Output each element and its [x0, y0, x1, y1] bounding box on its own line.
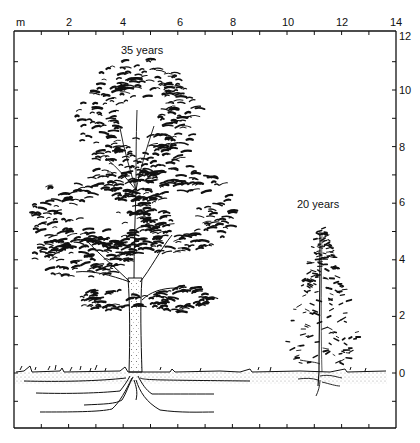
y-tick-label: 12 [399, 31, 411, 42]
small-tree-age-label: 20 years [297, 198, 339, 210]
y-tick-label: 4 [399, 254, 405, 265]
y-tick-label: 8 [399, 142, 405, 153]
y-tick-label: 10 [399, 85, 411, 96]
unit-label: m [16, 17, 25, 28]
x-tick-label: 4 [120, 17, 126, 28]
small-tree-foliage [286, 227, 360, 364]
x-tick-label: 2 [66, 17, 72, 28]
tree-growth-diagram: m 35 years 20 years 2468101214121086420 [0, 0, 420, 443]
y-tick-label: 0 [399, 368, 405, 379]
x-tick-label: 14 [390, 17, 402, 28]
diagram-canvas [0, 0, 420, 443]
x-tick-label: 10 [282, 17, 294, 28]
y-tick-label: 6 [399, 197, 405, 208]
x-tick-label: 12 [336, 17, 348, 28]
x-tick-label: 8 [230, 17, 236, 28]
x-tick-label: 6 [177, 17, 183, 28]
y-tick-label: 2 [399, 310, 405, 321]
large-tree-age-label: 35 years [121, 44, 163, 56]
